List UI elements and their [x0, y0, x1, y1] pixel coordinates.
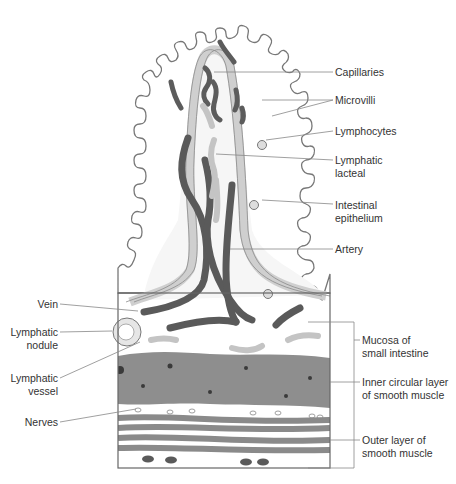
inner-circular-muscle	[118, 352, 330, 408]
label-lymphocytes: Lymphocytes	[335, 125, 396, 138]
outer-vessels	[142, 456, 269, 466]
villus-diagram	[0, 0, 456, 484]
label-line: small intestine	[362, 347, 429, 360]
label-line: nodule	[11, 339, 58, 352]
label-inner-circular: Inner circular layer of smooth muscle	[362, 376, 448, 402]
label-intestinal-epithelium: Intestinal epithelium	[335, 199, 383, 225]
label-line: Intestinal	[335, 199, 383, 212]
label-line: lacteal	[335, 167, 382, 180]
label-line: Lymphatic	[11, 326, 58, 339]
label-line: smooth muscle	[362, 447, 433, 460]
label-line: vessel	[11, 385, 58, 398]
label-microvilli: Microvilli	[335, 94, 375, 107]
label-lymphatic-nodule: Lymphatic nodule	[11, 326, 58, 352]
outer-muscle	[118, 417, 330, 450]
label-line: epithelium	[335, 212, 383, 225]
label-vein: Vein	[38, 298, 58, 311]
label-line: Mucosa of	[362, 334, 429, 347]
label-line: of smooth muscle	[362, 389, 448, 402]
label-nerves: Nerves	[25, 416, 58, 429]
label-lymphatic-lacteal: Lymphatic lacteal	[335, 154, 382, 180]
lymphatic-nodule	[113, 318, 141, 346]
label-outer-layer: Outer layer of smooth muscle	[362, 434, 433, 460]
label-artery: Artery	[335, 243, 363, 256]
label-line: Lymphatic	[11, 372, 58, 385]
label-line: Inner circular layer	[362, 376, 448, 389]
label-lymphatic-vessel: Lymphatic vessel	[11, 372, 58, 398]
label-capillaries: Capillaries	[335, 66, 384, 79]
label-line: Outer layer of	[362, 434, 433, 447]
label-mucosa: Mucosa of small intestine	[362, 334, 429, 360]
label-line: Lymphatic	[335, 154, 382, 167]
